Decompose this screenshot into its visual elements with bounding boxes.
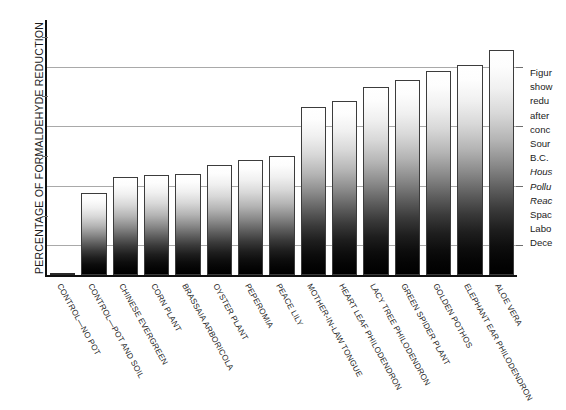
- bar: [207, 165, 232, 275]
- bar: [81, 193, 106, 275]
- caption-line: B.C.: [530, 151, 566, 165]
- bar: [426, 71, 451, 275]
- x-axis-label: PEACE LILY: [274, 282, 305, 328]
- formaldehyde-reduction-figure: PERCENTAGE OF FORMALDEHYDE REDUCTION 020…: [0, 0, 566, 410]
- caption-line: conc: [530, 123, 566, 137]
- x-axis-label: PEPEROMIA: [243, 282, 275, 330]
- caption-line: Hous: [530, 165, 566, 179]
- x-axis-label: HEART LEAF PHILODENDRON: [337, 282, 403, 392]
- bar: [175, 174, 200, 275]
- bar: [457, 65, 482, 275]
- x-axis-label: ALOE VERA: [493, 282, 524, 328]
- caption-line: Labo: [530, 222, 566, 236]
- caption-line: Sour: [530, 137, 566, 151]
- caption-line: show: [530, 80, 566, 94]
- bar: [332, 101, 357, 275]
- x-axis-label: ELEPHANT EAR PHILODENDRON: [462, 282, 534, 402]
- x-axis-label: LACY TREE PHILODENDRON: [368, 282, 432, 387]
- bar: [50, 273, 75, 275]
- x-axis-label-group: CONTROL—NO POTCONTROL—POT AND SOILCHINES…: [0, 278, 566, 410]
- right-tick: [516, 126, 523, 127]
- caption-line: Pollu: [530, 180, 566, 194]
- x-axis-label: BRASSAIA ARBORICOLA: [180, 282, 235, 372]
- caption-line: Dece: [530, 236, 566, 250]
- bar: [238, 160, 263, 275]
- bar: [489, 50, 514, 275]
- bar: [301, 107, 326, 275]
- x-axis-label: CONTROL—POT AND SOIL: [86, 282, 146, 380]
- bar: [269, 156, 294, 275]
- bar: [363, 87, 388, 275]
- bar: [113, 177, 138, 275]
- x-axis-label: OYSTER PLANT: [211, 282, 250, 342]
- bar-group: [47, 22, 517, 275]
- figure-caption: FigurshowreduafterconcSourB.C.HousPolluR…: [530, 66, 566, 251]
- caption-line: after: [530, 109, 566, 123]
- caption-line: redu: [530, 94, 566, 108]
- right-tick: [516, 245, 523, 246]
- plot-area: 020406080: [47, 22, 517, 275]
- right-tick: [516, 186, 523, 187]
- x-axis-label: CORN PLANT: [149, 282, 183, 333]
- x-axis-label: MOTHER-IN-LAW TONGUE: [305, 282, 364, 379]
- bar: [395, 80, 420, 275]
- caption-line: Spac: [530, 208, 566, 222]
- bar: [144, 175, 169, 275]
- caption-line: Figur: [530, 66, 566, 80]
- caption-line: Reac: [530, 194, 566, 208]
- right-tick: [516, 67, 523, 68]
